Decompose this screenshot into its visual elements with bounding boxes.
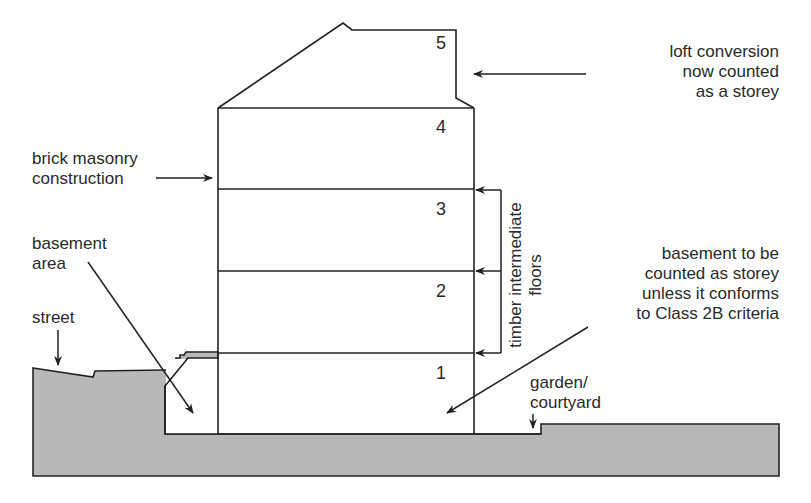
basement-area-line-2: area <box>32 254 107 274</box>
garden-label-line-2: courtyard <box>530 393 601 413</box>
basement-area-label: basement area <box>32 234 107 274</box>
storey-cross-section-diagram: 5 4 3 2 1 loft conversion now counted as… <box>0 0 811 503</box>
loft-conversion-label: loft conversion now counted as a storey <box>560 42 779 102</box>
loft-label-line-2: now counted <box>560 62 779 82</box>
basement-rule-label: basement to be counted as storey unless … <box>560 244 779 324</box>
storey-number-5: 5 <box>436 33 446 54</box>
storey-number-3: 3 <box>436 199 446 220</box>
brick-label-line-2: construction <box>32 169 138 189</box>
timber-label-line-1: timber intermediate <box>506 185 526 365</box>
storey-number-1: 1 <box>436 363 446 384</box>
garden-courtyard-label: garden/ courtyard <box>530 373 601 413</box>
storey-number-2: 2 <box>436 281 446 302</box>
ground-section <box>33 352 779 476</box>
basement-area-line-1: basement <box>32 234 107 254</box>
basement-rule-line-4: to Class 2B criteria <box>560 304 779 324</box>
timber-label-line-2: floors <box>526 185 546 365</box>
basement-rule-line-1: basement to be <box>560 244 779 264</box>
timber-floors-label: timber intermediate floors <box>506 185 546 365</box>
building <box>218 23 541 434</box>
basement-rule-line-2: counted as storey <box>560 264 779 284</box>
loft-label-line-3: as a storey <box>560 82 779 102</box>
street-label: street <box>32 308 75 328</box>
brick-label-line-1: brick masonry <box>32 149 138 169</box>
storey-number-4: 4 <box>436 117 446 138</box>
loft-label-line-1: loft conversion <box>560 42 779 62</box>
brick-masonry-label: brick masonry construction <box>32 149 138 189</box>
basement-rule-line-3: unless it conforms <box>560 284 779 304</box>
basement-void <box>166 359 218 434</box>
garden-label-line-1: garden/ <box>530 373 601 393</box>
